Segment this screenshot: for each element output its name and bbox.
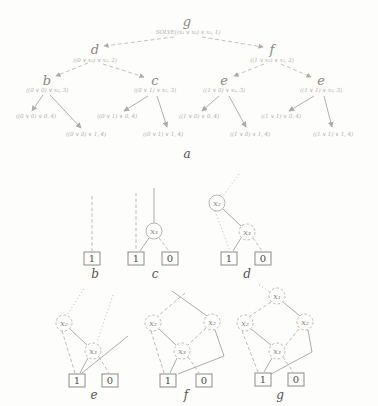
bdd-f-edge-x2l-x3	[159, 329, 176, 345]
bdd-f-node-x2-right-label: x₂	[208, 318, 216, 327]
bdd-f-edge-x3-0	[188, 357, 199, 373]
panel-caption-g: g	[276, 388, 284, 402]
bdd-f-edge-x2l-1	[151, 331, 164, 373]
tree-label-e2: ((1 ∨ 1) ∨ x₃, 3)	[300, 87, 342, 93]
tree-label-e1: ((1 ∨ 0) ∨ x₃, 3)	[203, 87, 245, 93]
bdd-b-terminal-1: 1	[89, 253, 95, 264]
bdd-f-terminal-1: 1	[165, 375, 171, 386]
tree-edge-e2-leaf7	[289, 96, 314, 111]
bdd-f-incoming-edge-right	[172, 291, 207, 316]
bdd-e-incoming-edge-x3	[97, 295, 113, 342]
panel-caption-e: e	[90, 388, 97, 402]
tree-label-d: ((0 ∨ x₂) ∨ x₃, 2)	[73, 57, 117, 63]
bdd-f-terminal-0: 0	[201, 375, 207, 386]
tree-leaf-8: ((1 ∨ 1) ∨ 1, 4)	[313, 131, 353, 137]
tree-leaf-4: ((0 ∨ 1) ∨ 1, 4)	[143, 131, 183, 137]
tree-leaf-5: ((1 ∨ 0) ∨ 0, 4)	[179, 113, 219, 119]
bdd-g-node-x1-label: x₁	[273, 292, 281, 301]
bdd-d-edge-x3-0	[253, 238, 262, 251]
bdd-g-edge-x2r-x3	[285, 329, 299, 346]
tree-edge-b-leaf2	[50, 95, 81, 128]
tree-node-e1: e	[220, 73, 228, 88]
bdd-e-node-x3-label: x₃	[89, 347, 97, 356]
tree-edge-c-leaf4	[157, 96, 167, 127]
bdd-g-edge-x2l-x3	[251, 329, 271, 345]
tree-edge-d-b	[56, 63, 88, 76]
bdd-d-terminal-1: 1	[226, 253, 232, 264]
bdd-f-node-x3-label: x₃	[178, 347, 186, 356]
bdd-e-terminal-1: 1	[74, 375, 80, 386]
search-tree: g SOLVE((x₁ ∨ x₂) ∨ x₃, 1) d ((0 ∨ x₂) ∨…	[16, 14, 353, 161]
tree-label-b: ((0 ∨ 0) ∨ x₃, 3)	[26, 87, 68, 93]
bdd-g-node-x2-left-label: x₂	[241, 319, 249, 328]
bdd-c-node-x3-label: x₃	[150, 227, 158, 236]
panel-caption-c: c	[152, 267, 159, 281]
bdd-d-incoming-edge	[223, 174, 239, 196]
panel-caption-f: f	[183, 388, 191, 402]
bdd-g-edge-x3-1	[264, 358, 272, 372]
bdd-g-node-x2-right-label: x₂	[301, 318, 309, 327]
bdd-g-node-x3-label: x₃	[273, 347, 281, 356]
tree-node-b: b	[43, 73, 51, 88]
bdd-g-edge-x1-x2l	[250, 302, 271, 316]
bdd-e: x₂ x₃ 1 0 e	[56, 289, 128, 402]
panel-caption-d: d	[243, 267, 251, 281]
figure-svg: g SOLVE((x₁ ∨ x₂) ∨ x₃, 1) d ((0 ∨ x₂) ∨…	[0, 0, 378, 406]
tree-edge-e2-leaf8	[324, 96, 332, 127]
tree-label-c: ((0 ∨ 1) ∨ x₃, 3)	[134, 87, 176, 93]
tree-leaf-3: ((0 ∨ 1) ∨ 0, 4)	[97, 113, 137, 119]
tree-edge-e1-leaf5	[202, 96, 219, 111]
bdd-e-edge-x3-1	[80, 358, 88, 373]
bdd-f-node-x2-left-label: x₂	[149, 319, 157, 328]
tree-leaf-1: ((0 ∨ 0) ∨ 0, 4)	[16, 113, 56, 119]
bdd-f-edge-x3-1	[170, 358, 177, 373]
bdd-f-edge-x2r-x3	[188, 328, 206, 345]
tree-edge-d-c	[103, 64, 144, 77]
bdd-g-terminal-1: 1	[260, 374, 266, 385]
bdd-c-terminal-1: 1	[133, 253, 139, 264]
bdd-g-incoming-edge	[259, 285, 270, 292]
bdd-d-node-x2-label: x₂	[213, 199, 221, 208]
tree-edge-f-e1	[234, 64, 264, 76]
bdd-d-edge-x2-x3	[223, 209, 241, 226]
bdd-e-edge-x2-1	[62, 331, 75, 373]
tree-node-d: d	[91, 42, 99, 57]
tree-leaf-6: ((1 ∨ 0) ∨ 1, 4)	[230, 131, 270, 137]
tree-edge-g-d	[104, 37, 174, 46]
bdd-e-incoming-edge-x2	[67, 289, 84, 315]
bdd-c-edge-x3-0	[159, 238, 169, 251]
tree-leaf-2: ((0 ∨ 0) ∨ 1, 4)	[66, 131, 106, 137]
bdd-e-edge-x3-0	[99, 357, 109, 373]
bdd-g-edge-x1-x2r	[283, 302, 300, 316]
bdd-g-terminal-0: 0	[293, 374, 299, 385]
bdd-g-edge-x3-0	[283, 357, 293, 372]
tree-node-c: c	[151, 73, 159, 88]
tree-node-e2: e	[317, 73, 325, 88]
bdd-f: x₂ x₂ x₃ 1 0 f	[145, 291, 224, 402]
bdd-d-node-x3-label: x₃	[243, 228, 251, 237]
bdd-e-node-x2-label: x₂	[60, 319, 68, 328]
bdd-d-terminal-0: 0	[260, 253, 266, 264]
tree-label-g: SOLVE((x₁ ∨ x₂) ∨ x₃, 1)	[156, 29, 221, 35]
bdd-c: x₃ 1 0 c	[128, 188, 178, 281]
tree-edge-f-e2	[281, 64, 311, 77]
tree-label-f: ((1 ∨ x₂) ∨ x₃, 2)	[250, 57, 294, 63]
tree-node-f: f	[269, 42, 277, 57]
bdd-e-edge-x2-x3	[70, 329, 87, 345]
bdd-c-edge-x3-1	[140, 238, 149, 251]
bdd-g-edge-x2l-1	[242, 331, 258, 372]
bdd-d-edge-x2-1	[215, 211, 230, 251]
bdd-c-terminal-0: 0	[167, 253, 173, 264]
tree-edge-e1-leaf6	[229, 96, 246, 127]
bdd-f-incoming-edge-left	[158, 293, 185, 316]
bdd-b: 1 b	[84, 196, 100, 281]
tree-edge-g-f	[202, 37, 263, 47]
tree-node-g: g	[183, 14, 191, 29]
panel-caption-a: a	[183, 147, 190, 161]
bdd-g: x₁ x₂ x₂ x₃ 1 0 g	[237, 285, 313, 402]
panel-caption-b: b	[91, 267, 99, 281]
figure-canvas: g SOLVE((x₁ ∨ x₂) ∨ x₃, 1) d ((0 ∨ x₂) ∨…	[0, 0, 378, 406]
tree-edge-c-leaf3	[124, 96, 148, 111]
bdd-d: x₂ x₃ 1 0 d	[209, 174, 271, 281]
tree-leaf-7: ((1 ∨ 1) ∨ 0, 4)	[261, 113, 301, 119]
